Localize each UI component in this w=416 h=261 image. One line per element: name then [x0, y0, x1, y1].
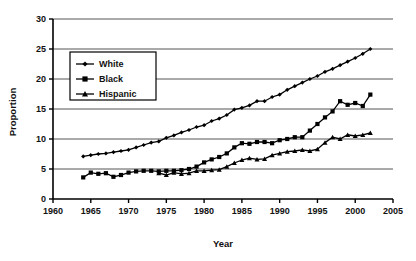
datapoint-black-1998	[338, 99, 342, 103]
x-tick-label-1990: 1990	[270, 206, 290, 216]
datapoint-white-1972	[142, 143, 146, 147]
datapoint-black-1966	[96, 172, 100, 176]
x-axis-ticks: 1960196519701975198019851990199520002005	[43, 199, 403, 216]
datapoint-white-1994	[308, 77, 312, 81]
datapoint-black-1982	[217, 155, 221, 159]
datapoint-black-1971	[134, 169, 138, 173]
datapoint-black-1987	[255, 140, 259, 144]
legend-label-black: Black	[99, 74, 124, 84]
datapoint-black-1988	[262, 140, 266, 144]
datapoint-white-1974	[157, 139, 161, 143]
x-tick-label-2000: 2000	[345, 206, 365, 216]
datapoint-white-1999	[346, 60, 350, 64]
datapoint-white-1997	[330, 67, 334, 71]
datapoint-black-1997	[330, 109, 334, 113]
datapoint-black-1980	[202, 160, 206, 164]
datapoint-black-1990	[278, 138, 282, 142]
datapoint-white-1964	[81, 154, 85, 158]
y-axis-ticks: 051015202530	[36, 14, 53, 204]
datapoint-black-1994	[308, 129, 312, 133]
y-axis-label: Proportion	[7, 88, 18, 137]
x-tick-label-1980: 1980	[194, 206, 214, 216]
datapoint-white-1971	[134, 145, 138, 149]
chart-legend: WhiteBlackHispanic	[70, 52, 156, 100]
x-tick-label-1965: 1965	[81, 206, 101, 216]
datapoint-white-1993	[300, 81, 304, 85]
chart-container: 051015202530 196019651970197519801985199…	[0, 0, 416, 261]
datapoint-black-1992	[293, 135, 297, 139]
datapoint-white-1992	[293, 84, 297, 88]
datapoint-black-1970	[126, 171, 130, 175]
datapoint-black-1965	[89, 171, 93, 175]
datapoint-black-1996	[323, 115, 327, 119]
datapoint-black-1968	[111, 175, 115, 179]
x-axis-label: Year	[213, 238, 233, 249]
x-tick-label-1995: 1995	[307, 206, 327, 216]
datapoint-black-1985	[240, 141, 244, 145]
datapoint-white-1982	[217, 117, 221, 121]
x-tick-label-1975: 1975	[156, 206, 176, 216]
x-tick-label-1960: 1960	[43, 206, 63, 216]
datapoint-white-1968	[111, 150, 115, 154]
datapoint-black-1986	[247, 142, 251, 146]
datapoint-white-1966	[96, 152, 100, 156]
datapoint-black-1978	[187, 167, 191, 171]
datapoint-black-1969	[119, 173, 123, 177]
proportion-by-race-line-chart: 051015202530 196019651970197519801985199…	[0, 0, 416, 261]
datapoint-white-1976	[172, 133, 176, 137]
datapoint-white-1967	[104, 151, 108, 155]
datapoint-black-1991	[285, 137, 289, 141]
datapoint-black-1999	[346, 103, 350, 107]
datapoint-black-1983	[225, 151, 229, 155]
datapoint-white-1969	[119, 149, 123, 153]
legend-label-hispanic: Hispanic	[99, 89, 137, 99]
datapoint-black-2002	[368, 93, 372, 97]
y-tick-label-30: 30	[36, 14, 46, 24]
datapoint-black-1995	[315, 122, 319, 126]
datapoint-black-1973	[149, 169, 153, 173]
datapoint-black-1964	[81, 175, 85, 179]
y-tick-label-0: 0	[41, 194, 46, 204]
x-tick-label-1970: 1970	[119, 206, 139, 216]
y-tick-label-5: 5	[41, 164, 46, 174]
datapoint-black-1967	[104, 171, 108, 175]
datapoint-white-1965	[89, 153, 93, 157]
x-tick-label-1985: 1985	[232, 206, 252, 216]
x-tick-label-2005: 2005	[383, 206, 403, 216]
datapoint-white-1979	[194, 125, 198, 129]
datapoint-white-1970	[126, 148, 130, 152]
datapoint-white-1978	[187, 128, 191, 132]
datapoint-white-1973	[149, 141, 153, 145]
datapoint-black-2000	[353, 101, 357, 105]
datapoint-black-1972	[142, 169, 146, 173]
legend-label-white: White	[99, 59, 124, 69]
y-tick-label-10: 10	[36, 134, 46, 144]
datapoint-black-1989	[270, 141, 274, 145]
datapoint-black-2001	[361, 104, 365, 108]
y-tick-label-15: 15	[36, 104, 46, 114]
legend-marker-black	[82, 76, 87, 81]
datapoint-black-1984	[232, 145, 236, 149]
datapoint-black-1981	[210, 157, 214, 161]
datapoint-black-1975	[164, 169, 168, 173]
y-tick-label-20: 20	[36, 74, 46, 84]
datapoint-white-1977	[179, 130, 183, 134]
datapoint-black-1993	[300, 135, 304, 139]
datapoint-black-1979	[194, 165, 198, 169]
datapoint-white-1998	[338, 63, 342, 67]
y-tick-label-25: 25	[36, 44, 46, 54]
